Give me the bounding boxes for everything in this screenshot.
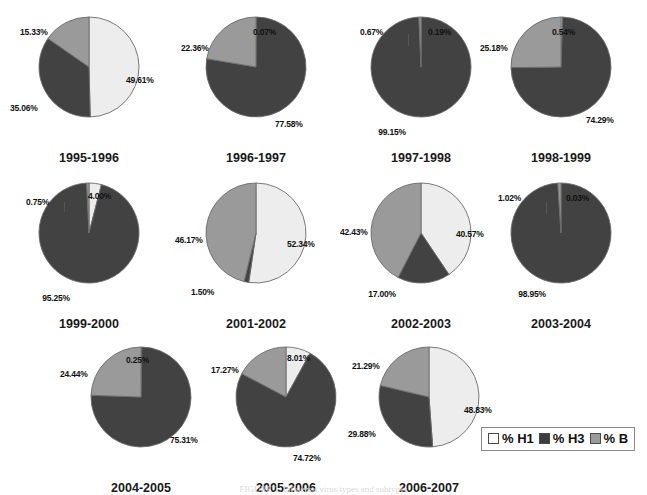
- pie-svg: [203, 180, 309, 286]
- slice-value-label: 52.34%: [287, 240, 315, 249]
- pie-graphic: 0.19%99.15%0.67%: [340, 6, 502, 134]
- slice-value-label: 1.02%: [498, 194, 521, 203]
- slice-value-label: 99.15%: [378, 128, 406, 137]
- slice-value-label: 77.58%: [275, 120, 303, 129]
- label-leader-line: [408, 34, 409, 46]
- pie-slice-b: [207, 17, 256, 67]
- pie-title-1996-1997: 1996-1997: [175, 151, 337, 165]
- slice-value-label: 8.01%: [287, 354, 310, 363]
- slice-value-label: 0.75%: [26, 198, 49, 207]
- slice-value-label: 17.27%: [211, 366, 239, 375]
- pie-title-2001-2002: 2001-2002: [175, 317, 337, 331]
- slice-value-label: 17.00%: [368, 290, 396, 299]
- pie-svg: [368, 14, 474, 120]
- slice-value-label: 48.83%: [464, 406, 492, 415]
- pie-graphic: 0.03%98.95%1.02%: [480, 172, 642, 300]
- pie-chart-1999-2000: 4.00%95.25%0.75%1999-2000: [8, 172, 170, 337]
- slice-value-label: 1.50%: [191, 288, 214, 297]
- legend-item-h1: % H1: [488, 431, 534, 446]
- chart-legend: % H1 % H3 % B: [481, 427, 635, 451]
- slice-value-label: 25.18%: [480, 44, 508, 53]
- pie-graphic: 0.54%74.29%25.18%: [480, 6, 642, 134]
- slice-value-label: 4.00%: [88, 192, 111, 201]
- slice-value-label: 24.44%: [60, 370, 88, 379]
- pie-chart-figure: 49.61%35.06%15.33%1995-19960.07%77.58%22…: [0, 0, 647, 495]
- pie-graphic: 52.34%1.50%46.17%: [175, 172, 337, 300]
- pie-graphic: 8.01%74.72%17.27%: [205, 336, 367, 464]
- slice-value-label: 98.95%: [518, 290, 546, 299]
- pie-title-1997-1998: 1997-1998: [340, 151, 502, 165]
- slice-value-label: 29.88%: [348, 430, 376, 439]
- legend-swatch-h1: [488, 433, 499, 444]
- legend-label-h1: % H1: [502, 431, 534, 446]
- slice-value-label: 0.03%: [566, 194, 589, 203]
- pie-chart-2006-2007: 48.83%29.88%21.29%2006-2007: [348, 336, 510, 495]
- pie-chart-2004-2005: 0.25%75.31%24.44%2004-2005: [60, 336, 222, 495]
- slice-value-label: 0.54%: [552, 28, 575, 37]
- pie-chart-2003-2004: 0.03%98.95%1.02%2003-2004: [480, 172, 642, 337]
- pie-slice-h1: [429, 347, 479, 447]
- pie-chart-1997-1998: 0.19%99.15%0.67%1997-1998: [340, 6, 502, 171]
- pie-slice-h1: [89, 17, 139, 117]
- slice-value-label: 75.31%: [170, 436, 198, 445]
- slice-value-label: 0.25%: [126, 356, 149, 365]
- pie-title-1998-1999: 1998-1999: [480, 151, 642, 165]
- pie-title-1999-2000: 1999-2000: [8, 317, 170, 331]
- legend-item-h3: % H3: [539, 431, 585, 446]
- legend-label-h3: % H3: [553, 431, 585, 446]
- pie-svg: [508, 180, 614, 286]
- pie-chart-2001-2002: 52.34%1.50%46.17%2001-2002: [175, 172, 337, 337]
- legend-item-b: % B: [590, 431, 629, 446]
- pie-graphic: 49.61%35.06%15.33%: [8, 6, 170, 134]
- pie-chart-2005-2006: 8.01%74.72%17.27%2005-2006: [205, 336, 367, 495]
- slice-value-label: 74.72%: [293, 454, 321, 463]
- pie-chart-1998-1999: 0.54%74.29%25.18%1998-1999: [480, 6, 642, 171]
- slice-value-label: 15.33%: [20, 28, 48, 37]
- pie-graphic: 0.25%75.31%24.44%: [60, 336, 222, 464]
- pie-title-1995-1996: 1995-1996: [8, 151, 170, 165]
- pie-chart-2002-2003: 40.57%17.00%42.43%2002-2003: [340, 172, 502, 337]
- pie-graphic: 0.07%77.58%22.36%: [175, 6, 337, 134]
- pie-svg: [36, 14, 142, 120]
- pie-svg: [376, 344, 482, 450]
- slice-value-label: 95.25%: [42, 294, 70, 303]
- pie-title-2003-2004: 2003-2004: [480, 317, 642, 331]
- label-leader-line: [64, 202, 65, 212]
- legend-label-b: % B: [604, 431, 629, 446]
- slice-value-label: 22.36%: [181, 44, 209, 53]
- pie-svg: [233, 344, 339, 450]
- label-leader-line: [546, 202, 547, 214]
- pie-chart-1995-1996: 49.61%35.06%15.33%1995-1996: [8, 6, 170, 171]
- slice-value-label: 0.07%: [253, 28, 276, 37]
- slice-value-label: 74.29%: [586, 116, 614, 125]
- legend-swatch-b: [590, 433, 601, 444]
- legend-swatch-h3: [539, 433, 550, 444]
- pie-graphic: 4.00%95.25%0.75%: [8, 172, 170, 300]
- slice-value-label: 42.43%: [340, 228, 368, 237]
- pie-graphic: 40.57%17.00%42.43%: [340, 172, 502, 300]
- slice-value-label: 21.29%: [352, 362, 380, 371]
- pie-slice-b: [511, 17, 561, 68]
- pie-chart-1996-1997: 0.07%77.58%22.36%1996-1997: [175, 6, 337, 171]
- slice-value-label: 0.67%: [360, 28, 383, 37]
- pie-slice-h1: [249, 183, 306, 283]
- slice-value-label: 0.19%: [428, 28, 451, 37]
- slice-value-label: 46.17%: [175, 236, 203, 245]
- slice-value-label: 35.06%: [10, 104, 38, 113]
- slice-value-label: 49.61%: [126, 76, 154, 85]
- figure-caption: FIGURE 1. Influenza virus types and subt…: [0, 484, 647, 495]
- pie-title-2002-2003: 2002-2003: [340, 317, 502, 331]
